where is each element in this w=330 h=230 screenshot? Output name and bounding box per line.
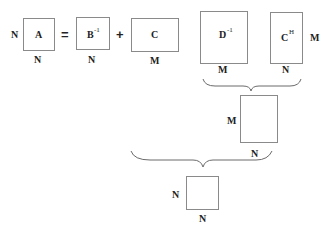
- matrix-c-label: C: [151, 29, 158, 40]
- matrix-d-label: D: [219, 29, 226, 40]
- matrix-product-mn-rows-label: M: [227, 115, 237, 126]
- matrix-ch-label: C: [281, 32, 288, 43]
- plus-sign: +: [116, 27, 124, 42]
- matrix-c-hermitian: C H M N: [271, 13, 321, 76]
- matrix-b-label: B: [87, 29, 94, 40]
- matrix-product-mn-cols-label: N: [251, 148, 259, 159]
- matrix-product-nn-cols-label: N: [199, 213, 207, 224]
- matrix-ch-cols-label: N: [282, 64, 290, 75]
- matrix-product-nn: N N: [172, 177, 219, 225]
- matrix-d-cols-label: M: [218, 64, 228, 75]
- matrix-a-label: A: [35, 29, 43, 40]
- matrix-product-mn: M N: [227, 96, 278, 160]
- matrix-ch-rows-label: M: [310, 32, 320, 43]
- matrix-product-mn-box: [241, 96, 278, 143]
- matrix-a-rows-label: N: [11, 29, 19, 40]
- matrix-c-cols-label: M: [150, 55, 160, 66]
- equals-sign: =: [61, 27, 69, 42]
- matrix-b-cols-label: N: [88, 54, 96, 65]
- matrix-ch-superscript: H: [289, 28, 294, 36]
- matrix-d-superscript: -1: [227, 26, 233, 34]
- matrix-b-inverse: B -1 N: [77, 18, 110, 66]
- matrix-c: C M: [132, 19, 179, 67]
- matrix-a-cols-label: N: [34, 54, 42, 65]
- matrix-product-nn-box: [187, 177, 219, 210]
- matrix-product-nn-rows-label: N: [172, 189, 180, 200]
- brace-upper: [203, 79, 301, 91]
- matrix-b-superscript: -1: [94, 26, 100, 34]
- matrix-a: N A N: [11, 19, 55, 66]
- matrix-d-inverse: D -1 M: [201, 12, 248, 76]
- matrix-diagram: N A N = B -1 N + C M D -1 M C H M N M N: [0, 0, 330, 230]
